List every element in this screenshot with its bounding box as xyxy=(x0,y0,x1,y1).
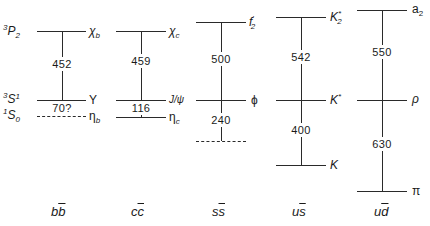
state-kstar: K* xyxy=(330,92,341,107)
flavor-us: us xyxy=(292,204,306,219)
state-pi: π xyxy=(412,184,420,198)
level-k xyxy=(276,165,326,166)
level-eta-c xyxy=(116,117,166,118)
label-1S0: 1S0 xyxy=(3,107,20,124)
state-chi-c: χc xyxy=(169,24,180,40)
state-jpsi: J/ψ xyxy=(169,94,184,105)
level-pi xyxy=(357,191,407,192)
splitting-459: 459 xyxy=(126,54,156,68)
connector-ud xyxy=(382,10,383,191)
splitting-70: 70? xyxy=(47,101,77,115)
connector-us xyxy=(301,17,302,165)
splitting-550: 550 xyxy=(367,45,397,59)
splitting-452: 452 xyxy=(47,57,77,71)
state-eta-c: ηc xyxy=(169,110,180,126)
splitting-630: 630 xyxy=(367,137,397,151)
label-3S1: 3S1 xyxy=(3,91,20,108)
state-k2star: K*2 xyxy=(330,9,342,26)
state-k: K xyxy=(330,158,338,172)
splitting-116: 116 xyxy=(126,101,156,115)
state-chi-b: χb xyxy=(89,24,100,40)
flavor-bb: bb xyxy=(51,204,65,219)
level-ss-pseudoscalar xyxy=(196,141,246,142)
splitting-500: 500 xyxy=(206,52,236,66)
state-phi: ϕ xyxy=(251,93,258,107)
splitting-240: 240 xyxy=(206,113,236,127)
splitting-400: 400 xyxy=(286,123,316,137)
splitting-542: 542 xyxy=(286,50,316,64)
state-eta-b: ηb xyxy=(89,109,100,125)
flavor-ud: ud xyxy=(374,204,388,219)
flavor-ss: ss xyxy=(212,204,225,219)
level-eta-b xyxy=(37,116,86,117)
state-upsilon: Υ xyxy=(89,93,97,107)
flavor-cc: cc xyxy=(131,204,144,219)
state-f2prime: f′2 xyxy=(249,14,255,31)
label-3P2: 3P2 xyxy=(3,23,20,40)
state-rho: ρ xyxy=(412,92,419,106)
state-a2: a2 xyxy=(412,2,423,18)
